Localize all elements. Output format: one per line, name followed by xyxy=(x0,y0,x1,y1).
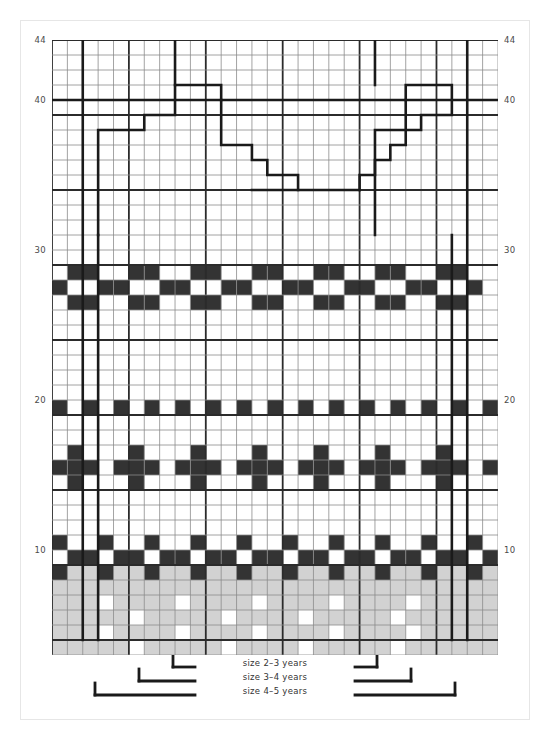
stitch-chart xyxy=(52,40,498,655)
axis-tick-right-20: 20 xyxy=(504,395,530,405)
shaping-outline-layer xyxy=(52,40,498,655)
axis-tick-right-30: 30 xyxy=(504,245,530,255)
axis-tick-left-10: 10 xyxy=(20,545,46,555)
knitting-chart-page: 4440302010 4440302010 size 2–3 years siz… xyxy=(0,0,550,745)
legend-item-2: size 4–5 years xyxy=(210,686,340,696)
axis-tick-left-20: 20 xyxy=(20,395,46,405)
legend-item-0: size 2–3 years xyxy=(210,658,340,668)
axis-tick-right-44: 44 xyxy=(504,35,530,45)
legend-item-1: size 3–4 years xyxy=(210,672,340,682)
axis-tick-left-30: 30 xyxy=(20,245,46,255)
axis-tick-left-40: 40 xyxy=(20,95,46,105)
axis-tick-right-10: 10 xyxy=(504,545,530,555)
size-legend: size 2–3 years size 3–4 years size 4–5 y… xyxy=(20,655,530,720)
axis-tick-left-44: 44 xyxy=(20,35,46,45)
axis-tick-right-40: 40 xyxy=(504,95,530,105)
